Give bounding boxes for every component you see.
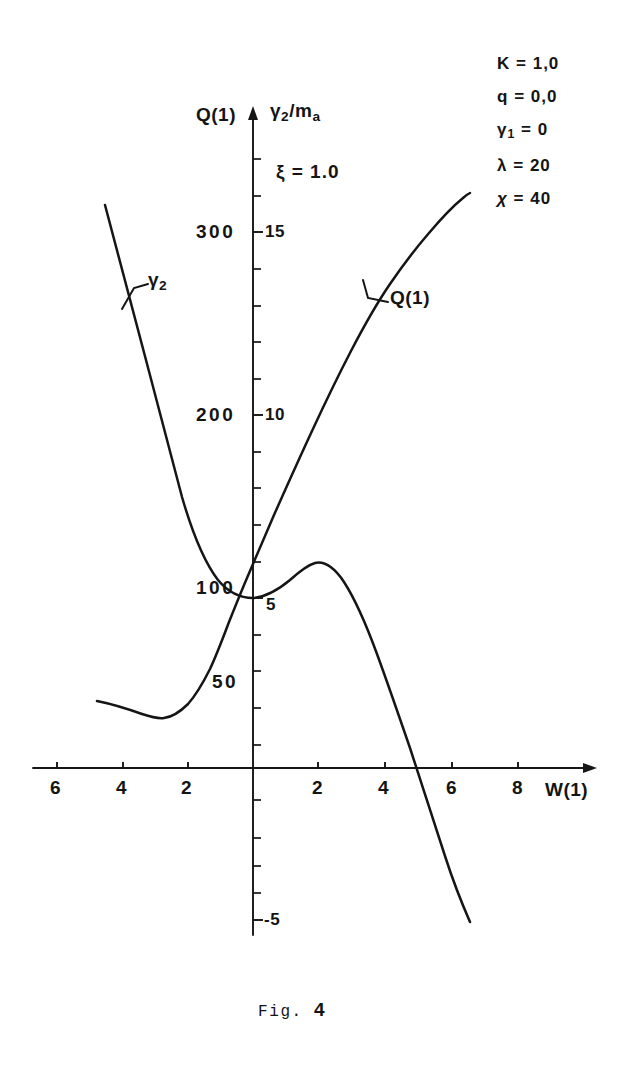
xi-annotation: ξ = 1.0 (276, 162, 340, 181)
x-axis-tick-minus2: 2 (181, 778, 192, 797)
curve-label-gamma2-subscript: 2 (159, 278, 167, 293)
parameter-block: Κ = 1,0 q = 0,0 γ1 = 0 λ = 20 χ = 40 (497, 55, 559, 207)
parameter-row-gamma1: γ1 = 0 (497, 121, 559, 141)
parameter-row-kappa: Κ = 1,0 (497, 55, 559, 72)
parameter-symbol-kappa: Κ (497, 54, 510, 73)
y-axis-arrowhead (248, 106, 258, 120)
parameter-symbol-chi: χ (497, 189, 508, 208)
parameter-value-q: 0,0 (531, 87, 558, 106)
figure-caption-number: 4 (314, 999, 325, 1020)
y-axis-title-right: γ2/ma (270, 101, 320, 124)
y-axis-group (248, 106, 263, 935)
parameter-subscript-gamma1: 1 (507, 127, 515, 141)
parameter-equals-lambda: = (513, 156, 524, 175)
x-axis-title: W(1) (545, 780, 588, 799)
parameter-equals-gamma1: = (521, 120, 532, 139)
parameter-value-lambda: 20 (530, 156, 551, 175)
y-axis-title-right-subscript: 2 (281, 109, 289, 124)
parameter-value-gamma1: 0 (538, 120, 548, 139)
parameter-equals-chi: = (514, 189, 525, 208)
parameter-row-q: q = 0,0 (497, 88, 559, 105)
parameter-symbol-gamma1: γ (497, 120, 507, 139)
y-axis-left-tick-50: 50 (212, 672, 238, 691)
curve-label-gamma2: γ2 (148, 270, 167, 293)
parameter-value-kappa: 1,0 (533, 54, 560, 73)
y-axis-title-right-tail: /m (289, 100, 312, 121)
x-axis-tick-minus4: 4 (116, 778, 127, 797)
figure-container: 300 200 100 50 15 10 5 -5 6 4 2 2 4 6 8 … (0, 0, 628, 1079)
y-axis-title-right-symbol: γ (270, 100, 281, 121)
y-axis-right-tick-15: 15 (265, 223, 285, 240)
parameter-symbol-q: q (497, 87, 508, 106)
parameter-value-chi: 40 (530, 189, 551, 208)
parameter-row-chi: χ = 40 (497, 190, 559, 207)
curve-label-gamma2-symbol: γ (148, 269, 159, 290)
x-axis-group (33, 762, 597, 773)
curve-gamma2 (105, 205, 470, 922)
x-axis-tick-minus6: 6 (50, 778, 61, 797)
y-axis-right-tick-minus5: -5 (264, 911, 280, 928)
figure-caption: Fig. 4 (258, 1000, 325, 1020)
y-axis-left-tick-200: 200 (196, 405, 235, 424)
parameter-equals-kappa: = (516, 54, 527, 73)
parameter-symbol-lambda: λ (497, 156, 507, 175)
y-axis-left-tick-300: 300 (196, 222, 235, 241)
parameter-equals-q: = (514, 87, 525, 106)
figure-caption-prefix: Fig. (258, 1003, 303, 1021)
y-axis-right-tick-5: 5 (266, 596, 276, 613)
parameter-row-lambda: λ = 20 (497, 157, 559, 174)
y-axis-title-right-tail-subscript: a (312, 109, 320, 124)
y-axis-left-tick-100: 100 (196, 578, 235, 597)
y-axis-right-tick-10: 10 (265, 406, 285, 423)
x-axis-tick-plus6: 6 (446, 778, 457, 797)
x-axis-arrowhead (583, 763, 597, 773)
y-axis-title-left: Q(1) (196, 105, 236, 124)
x-axis-tick-plus8: 8 (512, 778, 523, 797)
x-axis-tick-plus2: 2 (312, 778, 323, 797)
curve-label-q1: Q(1) (390, 288, 430, 307)
x-axis-tick-plus4: 4 (378, 778, 389, 797)
